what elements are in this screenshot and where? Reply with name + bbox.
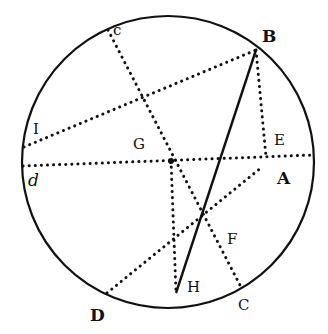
line-d-A [23,155,313,166]
label-B: B [262,28,276,45]
line-G-H [171,161,176,293]
label-H: H [187,280,200,295]
line-D-E [107,167,262,293]
label-E: E [274,133,285,148]
label-D: D [90,307,105,324]
label-I: I [33,122,39,137]
line-B-H [176,50,256,293]
label-G: G [133,137,145,152]
label-C: C [238,298,249,313]
circle-diagram: B c I G E d A F H C D [0,0,328,334]
label-c: c [113,23,121,38]
label-d: d [28,172,39,189]
label-F: F [227,232,237,247]
outer-circle [22,16,314,308]
diagram-canvas [0,0,328,334]
label-A: A [277,170,290,187]
line-B-E [256,50,266,157]
point-G [168,158,174,164]
